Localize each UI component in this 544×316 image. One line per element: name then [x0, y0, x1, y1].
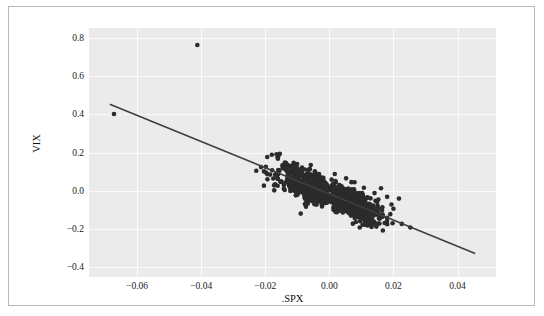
x-tick-label: 0.02	[363, 281, 423, 291]
y-tick-label: 0.8	[12, 33, 84, 43]
figure-frame: 0.80.60.40.20.0−0.2−0.4 −0.06−0.04−0.020…	[8, 6, 535, 306]
plot-panel	[89, 28, 496, 277]
y-axis-label: VIX	[31, 114, 42, 174]
y-tick-label: 0.6	[12, 71, 84, 81]
x-tick-label: 0.00	[299, 281, 359, 291]
y-tick-label: 0.2	[12, 148, 84, 158]
x-axis-label: .SPX	[89, 293, 496, 304]
y-axis-tick-labels: 0.80.60.40.20.0−0.2−0.4	[9, 28, 84, 277]
x-tick-label: −0.06	[107, 281, 167, 291]
y-tick-label: −0.4	[12, 262, 84, 272]
regression-fit-line	[89, 28, 496, 277]
y-tick-label: 0.0	[12, 186, 84, 196]
y-tick-label: −0.2	[12, 224, 84, 234]
x-tick-label: 0.04	[428, 281, 488, 291]
x-tick-label: −0.04	[171, 281, 231, 291]
y-tick-label: 0.4	[12, 109, 84, 119]
fit-line	[110, 104, 475, 253]
x-tick-label: −0.02	[235, 281, 295, 291]
